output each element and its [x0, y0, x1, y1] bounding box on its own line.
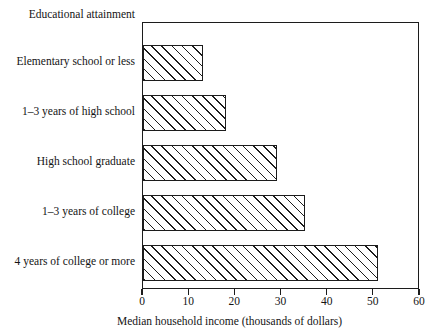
bar-elementary-school-or-less — [143, 45, 203, 81]
y-axis-title: Educational attainment — [29, 8, 135, 21]
category-label-3: 1–3 years of college — [42, 205, 135, 218]
x-tick-label-60: 60 — [404, 295, 433, 308]
bar-high-school-graduate — [143, 145, 277, 181]
x-tick-label-30: 30 — [266, 295, 296, 308]
x-tick-label-40: 40 — [312, 295, 342, 308]
bar-1-3-years-of-high-school — [143, 95, 226, 131]
bar-1-3-years-of-college — [143, 195, 305, 231]
x-axis-title: Median household income (thousands of do… — [0, 314, 433, 328]
category-label-0: Elementary school or less — [17, 55, 135, 68]
plot-area — [142, 22, 419, 289]
category-label-1: 1–3 years of high school — [22, 105, 135, 118]
x-tick-label-50: 50 — [358, 295, 388, 308]
category-label-2: High school graduate — [37, 155, 135, 168]
category-label-4: 4 years of college or more — [15, 255, 135, 268]
x-tick-label-10: 10 — [173, 295, 203, 308]
x-tick-label-0: 0 — [127, 295, 157, 308]
x-tick-label-20: 20 — [219, 295, 249, 308]
bar-4-years-of-college-or-more — [143, 245, 378, 281]
bar-chart: Educational attainment Elementary school… — [0, 0, 433, 336]
